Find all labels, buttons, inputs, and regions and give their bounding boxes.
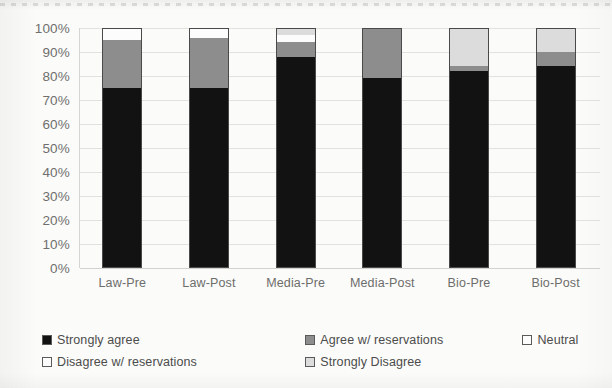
y-axis-tick-label: 20% — [8, 213, 70, 228]
legend-label-disagree-w-reservations: Disagree w/ reservations — [57, 355, 197, 369]
x-axis-tick-label-media-post: Media-Post — [339, 276, 426, 290]
x-axis-tick-label-law-pre: Law-Pre — [79, 276, 166, 290]
y-axis-tick-label: 0% — [8, 261, 70, 276]
bar-segment-bio-post-strongly-agree[interactable] — [536, 66, 576, 268]
legend-label-neutral: Neutral — [537, 333, 578, 347]
bar-segment-law-pre-neutral[interactable] — [102, 28, 142, 40]
legend-label-strongly-agree: Strongly agree — [57, 333, 140, 347]
legend-item-agree-w-reservations[interactable]: Agree w/ reservations — [305, 333, 443, 347]
legend-label-strongly-disagree: Strongly Disagree — [320, 355, 421, 369]
stacked-bar-bio-pre[interactable] — [449, 28, 489, 268]
y-axis-tick-label: 60% — [8, 117, 70, 132]
stacked-bar-chart-figure: 0%10%20%30%40%50%60%70%80%90%100% Law-Pr… — [0, 0, 612, 388]
y-axis-tick-label: 40% — [8, 165, 70, 180]
bar-segment-media-post-strongly-agree[interactable] — [362, 78, 402, 268]
bar-segment-law-pre-agree-w-reservations[interactable] — [102, 40, 142, 88]
bar-segment-media-post-agree-w-reservations[interactable] — [362, 28, 402, 78]
x-axis-tick-label-bio-post: Bio-Post — [512, 276, 599, 290]
bar-group-law-post[interactable] — [189, 28, 229, 268]
stacked-bar-media-post[interactable] — [362, 28, 402, 268]
bar-segment-bio-pre-agree-w-reservations[interactable] — [449, 66, 489, 71]
y-axis-tick-label: 70% — [8, 93, 70, 108]
x-axis-tick-label-media-pre: Media-Pre — [252, 276, 339, 290]
y-axis-tick-label: 10% — [8, 237, 70, 252]
bar-segment-law-post-neutral[interactable] — [189, 28, 229, 38]
bar-group-media-post[interactable] — [362, 28, 402, 268]
bar-group-law-pre[interactable] — [102, 28, 142, 268]
y-axis-tick-label: 50% — [8, 141, 70, 156]
bar-group-bio-pre[interactable] — [449, 28, 489, 268]
bar-segment-bio-post-agree-w-reservations[interactable] — [536, 52, 576, 66]
legend-item-strongly-disagree[interactable]: Strongly Disagree — [305, 355, 421, 369]
bar-segment-bio-pre-strongly-disagree[interactable] — [449, 28, 489, 66]
x-axis-tick-label-law-post: Law-Post — [166, 276, 253, 290]
bar-segment-law-post-strongly-agree[interactable] — [189, 88, 229, 268]
bar-segment-law-post-agree-w-reservations[interactable] — [189, 38, 229, 88]
legend-item-disagree-w-reservations[interactable]: Disagree w/ reservations — [42, 355, 197, 369]
bar-segment-media-pre-strongly-agree[interactable] — [276, 57, 316, 268]
scan-artifact-streak — [0, 3, 612, 6]
legend-swatch-icon-disagree-w-reservations — [42, 357, 52, 367]
y-axis-tick-label: 80% — [8, 69, 70, 84]
stacked-bar-media-pre[interactable] — [276, 28, 316, 268]
bar-segment-media-pre-strongly-disagree[interactable] — [276, 28, 316, 35]
legend-swatch-icon-agree-w-reservations — [305, 335, 315, 345]
bar-group-media-pre[interactable] — [276, 28, 316, 268]
legend-swatch-icon-strongly-agree — [42, 335, 52, 345]
x-axis: Law-PreLaw-PostMedia-PreMedia-PostBio-Pr… — [79, 276, 599, 296]
y-axis-tick-label: 90% — [8, 45, 70, 60]
legend-item-neutral[interactable]: Neutral — [522, 333, 578, 347]
stacked-bar-bio-post[interactable] — [536, 28, 576, 268]
legend-row-2: Disagree w/ reservationsStrongly Disagre… — [42, 355, 602, 377]
y-axis-tick-label: 100% — [8, 21, 70, 36]
stacked-bar-law-post[interactable] — [189, 28, 229, 268]
legend-row-1: Strongly agreeAgree w/ reservationsNeutr… — [42, 333, 602, 355]
gridline-0% — [80, 268, 600, 269]
x-axis-tick-label-bio-pre: Bio-Pre — [426, 276, 513, 290]
legend-swatch-icon-neutral — [522, 335, 532, 345]
bar-segment-media-pre-agree-w-reservations[interactable] — [276, 42, 316, 56]
legend-swatch-icon-strongly-disagree — [305, 357, 315, 367]
bars-layer — [79, 28, 599, 268]
y-axis: 0%10%20%30%40%50%60%70%80%90%100% — [8, 28, 70, 268]
y-axis-tick-label: 30% — [8, 189, 70, 204]
bar-group-bio-post[interactable] — [536, 28, 576, 268]
bar-segment-bio-post-strongly-disagree[interactable] — [536, 28, 576, 52]
legend-item-strongly-agree[interactable]: Strongly agree — [42, 333, 140, 347]
chart-legend: Strongly agreeAgree w/ reservationsNeutr… — [42, 333, 602, 377]
bar-segment-bio-pre-strongly-agree[interactable] — [449, 71, 489, 268]
bar-segment-law-pre-strongly-agree[interactable] — [102, 88, 142, 268]
stacked-bar-law-pre[interactable] — [102, 28, 142, 268]
bar-segment-media-pre-neutral[interactable] — [276, 35, 316, 42]
legend-label-agree-w-reservations: Agree w/ reservations — [320, 333, 443, 347]
